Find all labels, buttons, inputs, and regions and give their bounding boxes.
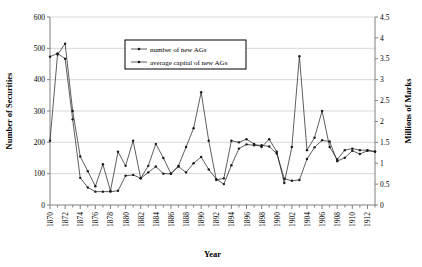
x-axis-tick-label: 1888 (182, 212, 191, 227)
data-point (102, 190, 104, 192)
data-point (94, 185, 96, 187)
legend-sample-marker (138, 61, 141, 64)
data-point (208, 140, 210, 142)
right-axis-tick-label: 4.5 (380, 13, 390, 22)
data-point (162, 172, 164, 174)
data-point (238, 141, 240, 143)
data-point (200, 156, 202, 158)
data-point (192, 127, 194, 129)
data-point (260, 144, 262, 146)
right-axis-tick-label: 1.5 (380, 138, 390, 147)
right-axis-tick-label: 4 (380, 34, 384, 43)
data-point (230, 164, 232, 166)
x-axis-tick-label: 1884 (152, 212, 161, 227)
data-point (132, 140, 134, 142)
x-axis-tick-label: 1902 (288, 212, 297, 227)
data-point (359, 153, 361, 155)
chart-legend: number of new AGsaverage capital of new … (125, 40, 246, 69)
x-axis-tick-label: 1910 (348, 212, 357, 227)
left-axis-tick-label: 600 (34, 13, 46, 22)
data-point (298, 179, 300, 181)
data-point (336, 160, 338, 162)
right-axis-title: Millions of Marks (403, 78, 413, 144)
data-point (238, 147, 240, 149)
data-point (366, 149, 368, 151)
data-point (109, 190, 111, 192)
data-point (132, 174, 134, 176)
data-point (140, 177, 142, 179)
data-point (102, 163, 104, 165)
data-point (276, 152, 278, 154)
legend-item-label: average capital of new AGs (150, 59, 228, 67)
legend-sample-marker (138, 48, 141, 51)
x-axis-tick-label: 1874 (76, 212, 85, 227)
data-point (124, 165, 126, 167)
x-axis-tick-label: 1898 (258, 212, 267, 227)
data-point (200, 91, 202, 93)
data-point (253, 144, 255, 146)
left-axis-tick-label: 300 (34, 107, 46, 116)
data-point (223, 183, 225, 185)
data-point (298, 55, 300, 57)
data-point (245, 138, 247, 140)
data-point (87, 170, 89, 172)
data-point (49, 55, 51, 57)
data-point (328, 140, 330, 142)
left-axis-tick-label: 500 (34, 44, 46, 53)
data-point (87, 186, 89, 188)
x-axis-tick-label: 1890 (197, 212, 206, 227)
x-axis-tick-label: 1886 (167, 212, 176, 227)
right-axis-tick-label: 2.5 (380, 96, 390, 105)
bottom-axis-title: Year (204, 249, 221, 259)
data-point (117, 190, 119, 192)
data-point (223, 177, 225, 179)
x-axis-tick-label: 1876 (91, 212, 100, 227)
data-point (283, 182, 285, 184)
data-point (162, 157, 164, 159)
data-point (291, 180, 293, 182)
x-axis-tick-label: 1900 (273, 212, 282, 227)
data-point (344, 157, 346, 159)
data-point (170, 172, 172, 174)
data-point (344, 149, 346, 151)
data-point (351, 149, 353, 151)
data-point (71, 118, 73, 120)
x-axis-tick-label: 1892 (212, 212, 221, 227)
data-point (49, 140, 51, 142)
right-axis-tick-label: 1 (380, 159, 384, 168)
data-point (268, 145, 270, 147)
left-axis-title: Number of Securities (4, 72, 14, 149)
right-axis-tick-label: 3 (380, 75, 384, 84)
data-point (94, 190, 96, 192)
data-point (245, 143, 247, 145)
left-axis-tick-label: 200 (34, 138, 46, 147)
data-point (124, 175, 126, 177)
data-point (268, 138, 270, 140)
x-axis-tick-label: 1882 (137, 212, 146, 227)
right-axis-tick-label: 3.5 (380, 54, 390, 63)
data-point (117, 151, 119, 153)
x-axis-tick-label: 1912 (363, 212, 372, 227)
data-point (306, 149, 308, 151)
data-point (64, 42, 66, 44)
data-point (192, 162, 194, 164)
data-point (155, 143, 157, 145)
left-axis-tick-label: 0 (41, 201, 45, 210)
chart-container: 010020030040050060000.511.522.533.544.51… (0, 0, 422, 267)
data-point (321, 139, 323, 141)
left-axis-tick-label: 400 (34, 75, 46, 84)
data-point (56, 52, 58, 54)
data-point (321, 110, 323, 112)
data-point (283, 177, 285, 179)
series-2 (49, 52, 376, 193)
data-point (208, 168, 210, 170)
x-axis-tick-label: 1878 (106, 212, 115, 227)
data-point (185, 146, 187, 148)
x-axis-tick-label: 1870 (46, 212, 55, 227)
left-axis-tick-label: 100 (34, 169, 46, 178)
data-point (306, 158, 308, 160)
data-point (374, 150, 376, 152)
data-point (328, 146, 330, 148)
data-point (313, 136, 315, 138)
legend-item-label: number of new AGs (150, 46, 207, 54)
